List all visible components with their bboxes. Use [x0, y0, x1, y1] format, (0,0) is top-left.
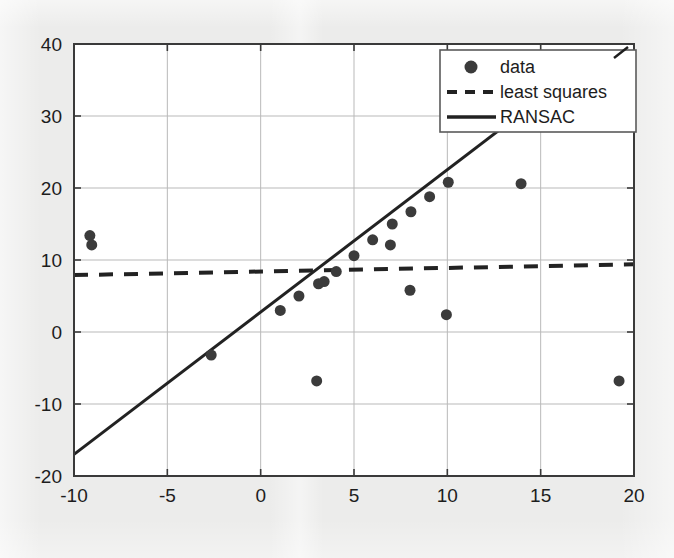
legend-item-label: data	[500, 57, 536, 77]
data-point	[349, 250, 360, 261]
y-tick-label: 40	[41, 34, 62, 55]
data-point	[443, 177, 454, 188]
data-point	[405, 206, 416, 217]
x-tick-label: 20	[623, 485, 644, 506]
y-tick-label: -10	[35, 394, 62, 415]
chart-legend: dataleast squaresRANSAC	[440, 47, 636, 132]
legend-item-label: RANSAC	[500, 107, 575, 127]
data-point	[516, 178, 527, 189]
data-point	[387, 219, 398, 230]
y-tick-label: 20	[41, 178, 62, 199]
y-tick-label: 0	[51, 322, 62, 343]
data-point	[441, 309, 452, 320]
data-point	[385, 239, 396, 250]
data-point	[405, 285, 416, 296]
data-point	[311, 375, 322, 386]
ransac-scatter-chart: -10-505101520 -20-10010203040 dataleast …	[0, 0, 674, 558]
data-point	[331, 266, 342, 277]
y-tick-label: 10	[41, 250, 62, 271]
x-tick-label: 0	[255, 485, 266, 506]
x-axis-tick-labels: -10-505101520	[60, 485, 644, 506]
data-point	[319, 276, 330, 287]
data-point	[293, 291, 304, 302]
y-tick-label: -20	[35, 466, 62, 487]
data-point	[206, 350, 217, 361]
data-point	[86, 239, 97, 250]
data-point	[367, 234, 378, 245]
y-axis-tick-labels: -20-10010203040	[35, 34, 62, 487]
legend-item-label: least squares	[500, 82, 607, 102]
data-point	[424, 191, 435, 202]
x-tick-label: -5	[159, 485, 176, 506]
legend-marker-icon	[465, 61, 478, 74]
x-tick-label: -10	[60, 485, 87, 506]
y-tick-label: 30	[41, 106, 62, 127]
x-tick-label: 5	[349, 485, 360, 506]
data-point	[275, 305, 286, 316]
figure-page: -10-505101520 -20-10010203040 dataleast …	[0, 0, 674, 558]
data-point	[614, 375, 625, 386]
x-tick-label: 15	[530, 485, 551, 506]
data-point	[84, 230, 95, 241]
x-tick-label: 10	[437, 485, 458, 506]
